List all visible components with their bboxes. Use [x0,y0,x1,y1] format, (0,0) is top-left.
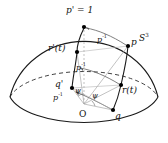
label-q: q [115,112,121,121]
label-r-prime-t: r'(t) [48,44,65,53]
label-angle-upper: ψ [75,87,81,95]
ray-to-q [84,104,113,110]
ray-to-p [84,46,128,104]
ray-to-r-t [84,85,121,104]
label-point-p: p [131,38,137,47]
label-q-prime: q' [55,80,63,89]
dot-p [126,44,130,48]
label-origin: O [79,110,86,119]
label-apex: p' = 1 [66,6,93,15]
angle-arc-lower [92,101,95,106]
geometry-figure: p' = 1 S3 p r'(t) r(t) q' q O p-1 p-1 p-… [0,0,168,143]
map-bottom-exponent: -1 [58,91,63,97]
label-map-mid: p-1 [76,64,86,72]
dot-r-prime-t [75,50,79,54]
map-mid-exponent: -1 [81,61,86,67]
dot-apex [82,25,86,29]
label-r-t: r(t) [122,86,137,95]
label-map-top: p-1 [97,36,107,44]
label-angle-lower: ψ [92,92,98,100]
sphere-exponent: 3 [145,32,149,38]
label-map-bottom: p-1 [53,94,63,102]
label-sphere: S3 [139,34,149,43]
connector-upper [77,46,128,52]
map-top-exponent: -1 [102,33,107,39]
dot-q-prime [70,86,74,90]
